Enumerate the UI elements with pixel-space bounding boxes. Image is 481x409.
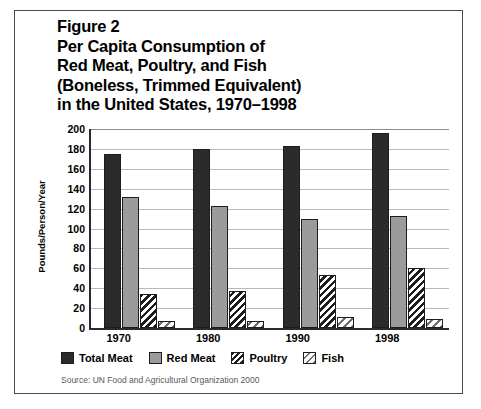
bar-group <box>91 129 181 328</box>
bar-red-meat-1970 <box>122 197 139 328</box>
bar-group <box>270 129 360 328</box>
y-tick-label: 80 <box>45 243 85 254</box>
bar-total-meat-1980 <box>193 149 210 328</box>
x-tick-label: 1970 <box>89 332 179 344</box>
y-tick-label: 200 <box>45 124 85 135</box>
y-tick-label: 0 <box>45 323 85 334</box>
figure-title: Figure 2 Per Capita Consumption of Red M… <box>57 17 407 115</box>
bar-fish-1990 <box>337 317 354 328</box>
bar-red-meat-1998 <box>390 216 407 328</box>
y-tick-label: 180 <box>45 143 85 154</box>
x-tick-label: 1990 <box>268 332 358 344</box>
y-tick-label: 160 <box>45 163 85 174</box>
x-tick-label: 1980 <box>179 332 269 344</box>
bar-chart: Pounds/Person/Year 020406080100120140160… <box>15 129 462 344</box>
legend-label: Total Meat <box>79 352 133 364</box>
legend-swatch-icon <box>231 352 244 364</box>
bar-fish-1998 <box>426 319 443 328</box>
source-note: Source: UN Food and Agricultural Organiz… <box>61 375 259 385</box>
bar-group-bars <box>91 129 181 328</box>
legend-label: Red Meat <box>167 352 216 364</box>
legend-item-red-meat[interactable]: Red Meat <box>149 352 216 364</box>
bar-fish-1980 <box>247 321 264 328</box>
chart-legend: Total MeatRed MeatPoultryFish <box>61 352 360 364</box>
y-tick-label: 40 <box>45 283 85 294</box>
bar-group <box>360 129 450 328</box>
bar-total-meat-1970 <box>104 154 121 328</box>
bar-red-meat-1990 <box>301 219 318 328</box>
title-line-5: in the United States, 1970–1998 <box>57 95 407 115</box>
title-line-1: Figure 2 <box>57 17 407 37</box>
legend-item-poultry[interactable]: Poultry <box>231 352 287 364</box>
bar-group-bars <box>181 129 271 328</box>
bar-poultry-1970 <box>140 294 157 328</box>
figure-panel: Figure 2 Per Capita Consumption of Red M… <box>14 10 463 394</box>
bar-group-bars <box>360 129 450 328</box>
bar-total-meat-1990 <box>283 146 300 328</box>
title-line-2: Per Capita Consumption of <box>57 37 407 57</box>
y-tick-label: 120 <box>45 203 85 214</box>
y-tick-label: 140 <box>45 183 85 194</box>
legend-swatch-icon <box>303 352 316 364</box>
plot-area <box>89 129 449 330</box>
y-axis-tick-labels: 020406080100120140160180200 <box>45 129 85 328</box>
x-tick-label: 1998 <box>358 332 448 344</box>
y-tick-label: 100 <box>45 223 85 234</box>
legend-label: Poultry <box>249 352 287 364</box>
x-axis-tick-labels: 1970198019901998 <box>89 332 447 344</box>
bar-group-bars <box>270 129 360 328</box>
legend-item-fish[interactable]: Fish <box>303 352 344 364</box>
bar-groups <box>91 129 449 328</box>
legend-swatch-icon <box>149 352 162 364</box>
bar-poultry-1998 <box>408 268 425 328</box>
bar-fish-1970 <box>158 321 175 328</box>
legend-swatch-icon <box>61 352 74 364</box>
title-line-4: (Boneless, Trimmed Equivalent) <box>57 76 407 96</box>
legend-item-total-meat[interactable]: Total Meat <box>61 352 133 364</box>
title-line-3: Red Meat, Poultry, and Fish <box>57 56 407 76</box>
y-tick-label: 60 <box>45 263 85 274</box>
bar-group <box>181 129 271 328</box>
bar-total-meat-1998 <box>372 133 389 328</box>
legend-label: Fish <box>321 352 344 364</box>
bar-poultry-1980 <box>229 291 246 328</box>
bar-poultry-1990 <box>319 275 336 328</box>
bar-red-meat-1980 <box>211 206 228 328</box>
y-tick-label: 20 <box>45 303 85 314</box>
